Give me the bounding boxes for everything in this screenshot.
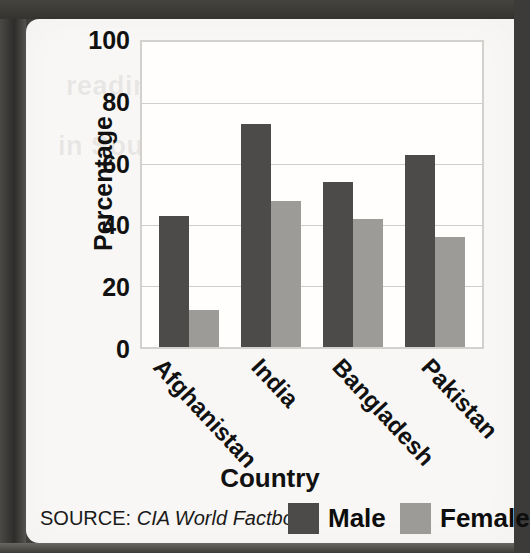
- bar-chart: Percentage 100 80 60 40 20 0: [26, 19, 514, 543]
- legend-item-female: Female: [400, 503, 530, 534]
- plot-area: [140, 40, 484, 349]
- y-tick-60: 60: [102, 149, 130, 178]
- x-label-pakistan: Pakistan: [416, 353, 504, 444]
- page-left-border: [0, 0, 26, 553]
- bar-groups: [142, 42, 482, 347]
- legend-swatch-male-icon: [288, 503, 319, 534]
- bar-group-afghanistan: [148, 42, 230, 347]
- y-tick-80: 80: [102, 87, 130, 116]
- bar-bangladesh-female: [353, 219, 383, 347]
- y-axis-ticks: 100 80 60 40 20 0: [46, 40, 130, 349]
- legend-label-male: Male: [328, 503, 386, 534]
- chart-footer: SOURCE: CIA World Factbook Male Female: [26, 499, 514, 543]
- y-tick-20: 20: [102, 273, 130, 302]
- bar-pakistan-male: [405, 155, 435, 347]
- chart-card: reading literacy in South Asia Percentag…: [26, 19, 514, 543]
- page-top-border: [0, 0, 514, 19]
- x-label-india: India: [246, 353, 305, 413]
- y-tick-40: 40: [102, 211, 130, 240]
- bar-group-bangladesh: [312, 42, 394, 347]
- y-tick-0: 0: [116, 335, 130, 364]
- source-label: SOURCE:: [40, 507, 131, 529]
- bar-afghanistan-female: [189, 310, 219, 347]
- x-axis-title: Country: [26, 463, 514, 494]
- legend-label-female: Female: [440, 503, 530, 534]
- bar-india-male: [241, 124, 271, 347]
- bar-india-female: [271, 201, 301, 347]
- source-credit: SOURCE: CIA World Factbook: [40, 507, 315, 530]
- bar-pakistan-female: [435, 237, 465, 347]
- bar-group-india: [230, 42, 312, 347]
- bar-group-pakistan: [394, 42, 476, 347]
- page-bottom-border: [0, 543, 514, 553]
- y-tick-100: 100: [88, 26, 130, 55]
- bar-bangladesh-male: [323, 182, 353, 347]
- legend-swatch-female-icon: [400, 503, 431, 534]
- bar-afghanistan-male: [159, 216, 189, 347]
- legend-item-male: Male: [288, 503, 386, 534]
